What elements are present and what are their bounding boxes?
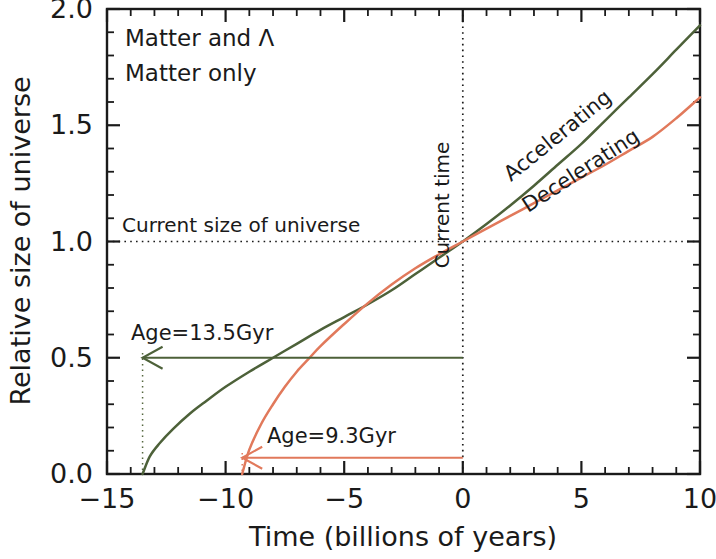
x-tick-label: −5 xyxy=(324,483,364,514)
age-label-lcdm: Age=13.5Gyr xyxy=(131,321,274,345)
legend-item-matter-and-lambda: Matter and Λ xyxy=(125,25,274,51)
y-tick-label: 2.0 xyxy=(50,0,93,24)
x-axis-title: Time (billions of years) xyxy=(248,521,557,552)
cosmology-expansion-chart: −15−10−50510 0.00.51.01.52.0 Time (billi… xyxy=(0,0,716,559)
x-tick-label: 0 xyxy=(454,483,471,514)
x-axis-tick-labels: −15−10−50510 xyxy=(79,483,716,514)
current-time-label: Current time xyxy=(430,142,454,269)
chart-page: −15−10−50510 0.00.51.01.52.0 Time (billi… xyxy=(0,0,716,559)
age-arrow-matter xyxy=(242,447,463,469)
current-size-label: Current size of universe xyxy=(122,213,360,237)
y-tick-label: 0.0 xyxy=(50,458,93,489)
y-axis-title: Relative size of universe xyxy=(5,76,36,405)
curve-matter-and-lambda xyxy=(143,25,700,474)
legend-item-matter-only: Matter only xyxy=(125,60,257,86)
curve-matter-only xyxy=(242,97,700,474)
y-tick-label: 1.0 xyxy=(50,226,93,257)
y-axis-tick-labels: 0.00.51.01.52.0 xyxy=(50,0,93,489)
age-label-matter: Age=9.3Gyr xyxy=(267,424,396,448)
x-tick-label: 10 xyxy=(683,483,716,514)
y-tick-label: 0.5 xyxy=(50,342,93,373)
x-tick-label: 5 xyxy=(573,483,590,514)
x-tick-label: −10 xyxy=(197,483,254,514)
y-tick-label: 1.5 xyxy=(50,109,93,140)
